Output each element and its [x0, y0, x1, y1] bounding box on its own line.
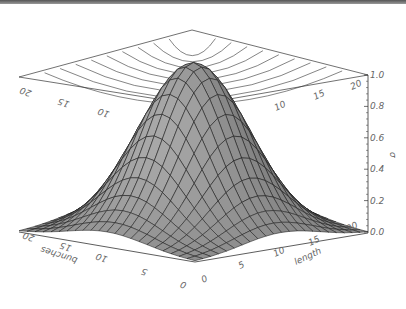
back-tick-label: 20 — [349, 78, 364, 92]
back-tick-label: 15 — [56, 96, 70, 109]
y-tick-label: 5 — [140, 266, 149, 277]
x-axis-title: length — [293, 246, 323, 267]
z-tick-label: 0.8 — [370, 101, 385, 111]
back-tick-label: 10 — [273, 99, 288, 113]
z-tick-label: 0.2 — [370, 196, 385, 206]
z-tick-label: 0.6 — [370, 133, 385, 143]
back-tick-label: 20 — [18, 85, 32, 98]
back-tick-label: 15 — [312, 88, 327, 102]
z-tick-label: 1.0 — [370, 70, 385, 80]
y-tick-label: 20 — [21, 230, 35, 243]
y-axis-title: bunches — [39, 244, 79, 265]
z-tick-label: 0.4 — [370, 164, 385, 174]
x-tick-label: 5 — [237, 259, 247, 271]
y-tick-label: 10 — [94, 251, 108, 264]
x-tick-label: 0 — [200, 273, 210, 285]
surface-plot: 0.00.20.40.60.81.0σ05101520bunches051015… — [0, 0, 406, 309]
z-axis-title: σ — [388, 152, 398, 158]
back-tick-label: 10 — [96, 106, 110, 119]
y-tick-label: 0 — [179, 279, 188, 290]
z-tick-label: 0.0 — [370, 227, 385, 237]
x-tick-label: 15 — [307, 234, 322, 248]
